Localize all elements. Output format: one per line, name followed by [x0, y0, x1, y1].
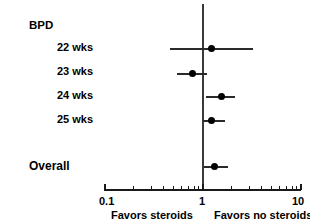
x-axis-minor-tick-0.8	[194, 186, 195, 190]
x-axis-minor-tick-2	[231, 186, 232, 190]
x-axis-major-tick-10	[300, 184, 302, 190]
x-axis-minor-tick-7	[286, 186, 287, 190]
x-axis-minor-tick-0.7	[188, 186, 189, 190]
x-axis-minor-tick-0.5	[173, 186, 174, 190]
x-axis-tick-label-null: 1	[199, 196, 205, 207]
plot-area: 0.1 1 10 Favors steroids Favors no stero…	[0, 0, 310, 223]
null-effect-line	[202, 4, 204, 189]
point-marker-24-wks	[218, 93, 225, 100]
x-axis-minor-tick-0.9	[198, 186, 199, 190]
x-axis-major-tick-1	[202, 184, 204, 190]
x-axis-major-tick-0.1	[104, 184, 106, 190]
forest-plot-figure: BPD 22 wks 23 wks 24 wks 25 wks Overall	[0, 0, 310, 223]
x-axis-minor-tick-8	[292, 186, 293, 190]
favors-steroids-label: Favors steroids	[111, 210, 193, 221]
x-axis-minor-tick-0.3	[151, 186, 152, 190]
x-axis-minor-tick-6	[279, 186, 280, 190]
point-marker-25-wks	[208, 117, 215, 124]
x-axis-tick-label-low: 0.1	[99, 196, 114, 207]
point-marker-overall	[211, 163, 218, 170]
x-axis-minor-tick-5	[271, 186, 272, 190]
x-axis-minor-tick-9	[296, 186, 297, 190]
point-marker-23-wks	[189, 70, 196, 77]
x-axis-minor-tick-0.6	[181, 186, 182, 190]
x-axis-minor-tick-0.4	[163, 186, 164, 190]
x-axis-tick-label-high: 10	[292, 196, 304, 207]
favors-no-steroids-label: Favors no steroids	[214, 210, 310, 221]
x-axis-minor-tick-4	[261, 186, 262, 190]
point-marker-22-wks	[208, 45, 215, 52]
x-axis-minor-tick-0.2	[133, 186, 134, 190]
x-axis-minor-tick-3	[249, 186, 250, 190]
